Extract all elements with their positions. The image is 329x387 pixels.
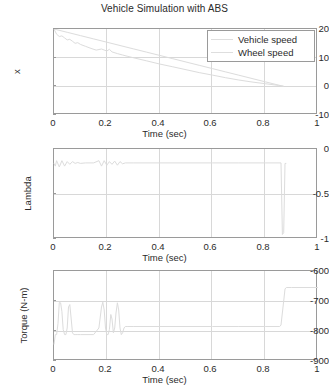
ytick-label-torque-neg700: -700	[282, 295, 329, 306]
ytick-label-torque-neg600: -600	[282, 265, 329, 276]
legend-item-vehicle-speed[interactable]: Vehicle speed	[211, 33, 310, 46]
ytick-label-neg10: -10	[282, 109, 329, 120]
ytick-mark-10	[53, 57, 56, 58]
subplot-lambda: 0 -0.5 -1 0 0.2 0.4 0.6 0.8 1 Time (sec)…	[0, 140, 329, 258]
ytick-label-lambda-neg05: -0.5	[282, 188, 329, 199]
matlab-figure-canvas: Vehicle Simulation with ABS 20 10 0 -10 …	[0, 0, 329, 387]
series-lines-3	[54, 271, 318, 361]
series-lines-2	[54, 149, 318, 239]
subplot-torque: -600 -700 -800 -900 0 0.2 0.4 0.6 0.8 1 …	[0, 258, 329, 387]
xtick-label-1-08: 0.8	[256, 117, 269, 128]
ytick-mark-0	[53, 148, 56, 149]
legend-line-icon	[211, 52, 233, 53]
xaxis-label-3: Time (sec)	[0, 374, 329, 385]
ytick-label-lambda-neg1: -1	[282, 233, 329, 244]
curve-lambda	[54, 161, 286, 235]
xtick-label-3-02: 0.2	[98, 363, 111, 374]
curve-torque	[54, 288, 318, 345]
yaxis-label-1: x	[11, 69, 22, 74]
xtick-label-3-08: 0.8	[256, 363, 269, 374]
legend-line-icon	[211, 39, 233, 40]
ytick-mark-neg800	[53, 330, 56, 331]
plot-area-3	[53, 270, 317, 360]
legend-box[interactable]: Vehicle speed Wheel speed	[207, 30, 315, 62]
ytick-mark-neg10	[53, 114, 56, 115]
subplot-vehicle-speed: Vehicle Simulation with ABS 20 10 0 -10 …	[0, 0, 329, 140]
xtick-label-1-02: 0.2	[98, 117, 111, 128]
xtick-label-3-1: 1	[314, 363, 319, 374]
xtick-label-2-06: 0.6	[203, 241, 216, 252]
xtick-label-2-02: 0.2	[98, 241, 111, 252]
legend-label: Wheel speed	[238, 47, 293, 58]
ytick-label-torque-neg900: -900	[282, 355, 329, 366]
ytick-mark-neg600	[53, 270, 56, 271]
xtick-label-3-06: 0.6	[203, 363, 216, 374]
xtick-label-1-06: 0.6	[203, 117, 216, 128]
ytick-label-0: 0	[282, 80, 329, 91]
ytick-label-lambda-0: 0	[282, 143, 329, 154]
xtick-label-1-04: 0.4	[151, 117, 164, 128]
ytick-mark-neg1	[53, 238, 56, 239]
legend-item-wheel-speed[interactable]: Wheel speed	[211, 46, 310, 59]
xtick-label-2-04: 0.4	[151, 241, 164, 252]
ytick-mark-20	[53, 28, 56, 29]
xtick-label-1-1: 1	[314, 117, 319, 128]
plot-area-2	[53, 148, 317, 238]
yaxis-label-3: Torque (N-m)	[18, 271, 29, 361]
ytick-mark-0	[53, 85, 56, 86]
xtick-label-2-1: 1	[314, 241, 319, 252]
xtick-label-2-08: 0.8	[256, 241, 269, 252]
yaxis-label-2: Lambda	[22, 164, 33, 224]
ytick-mark-neg05	[53, 193, 56, 194]
ytick-mark-neg700	[53, 300, 56, 301]
chart-title: Vehicle Simulation with ABS	[0, 3, 329, 14]
xtick-label-3-04: 0.4	[151, 363, 164, 374]
xtick-label-1-0: 0	[50, 117, 55, 128]
legend-label: Vehicle speed	[238, 34, 297, 45]
ytick-label-torque-neg800: -800	[282, 325, 329, 336]
ytick-mark-neg900	[53, 360, 56, 361]
xaxis-label-1: Time (sec)	[0, 128, 329, 139]
xtick-label-3-0: 0	[50, 363, 55, 374]
xtick-label-2-0: 0	[50, 241, 55, 252]
